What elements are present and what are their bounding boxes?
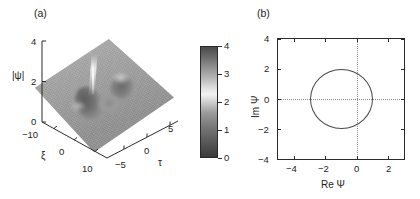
ytick-label-0: 0 <box>264 95 269 105</box>
xtick-top-0 <box>357 39 358 42</box>
colorbar-label-4: 4 <box>224 41 229 51</box>
panel-a: (a) <box>0 0 200 199</box>
figure-root: (a) <box>0 0 420 199</box>
colorbar-gradient <box>201 47 217 157</box>
colorbar-tick-2 <box>218 102 222 103</box>
ytick-label-minus2: −2 <box>258 125 269 135</box>
panel-b: (b) <box>245 0 420 199</box>
xtick-0 <box>357 156 358 159</box>
axes-3d-frame <box>0 0 200 199</box>
ytick-0 <box>278 99 281 100</box>
ytick-right-minus4 <box>401 159 404 160</box>
axis-label-psi: |ψ| <box>12 71 24 81</box>
colorbar-label-2: 2 <box>224 97 229 107</box>
ytick-label-minus4: −4 <box>258 155 269 165</box>
xtick-top-2 <box>388 39 389 42</box>
ytick-4 <box>278 39 281 40</box>
z-tick-0: 0 <box>31 117 36 127</box>
tau-tick-minus5: −5 <box>115 160 126 170</box>
colorbar-tick-0 <box>218 158 222 159</box>
tau-tick-0: 0 <box>144 146 149 156</box>
axis-label-im-psi: Im Ψ <box>251 96 261 118</box>
series-trajectory-circle <box>310 69 373 129</box>
xtick-top-minus2 <box>325 39 326 42</box>
colorbar <box>200 46 218 158</box>
xtick-2 <box>388 156 389 159</box>
xtick-minus4 <box>294 156 295 159</box>
colorbar-tick-4 <box>218 46 222 47</box>
ytick-label-4: 4 <box>264 34 269 44</box>
ytick-right-2 <box>401 69 404 70</box>
z-tick-4: 4 <box>31 37 36 47</box>
xtick-top-minus4 <box>294 39 295 42</box>
ytick-right-minus2 <box>401 129 404 130</box>
ytick-minus4 <box>278 159 281 160</box>
panel-b-tag: (b) <box>257 8 270 19</box>
colorbar-tick-3 <box>218 74 222 75</box>
ytick-right-4 <box>401 39 404 40</box>
axis-label-re-psi: Re Ψ <box>321 180 345 190</box>
ytick-label-2: 2 <box>264 64 269 74</box>
colorbar-label-3: 3 <box>224 69 229 79</box>
ytick-minus2 <box>278 129 281 130</box>
axis-label-tau: τ <box>158 158 162 168</box>
colorbar-label-0: 0 <box>224 153 229 163</box>
xtick-label-minus2: −2 <box>318 164 329 174</box>
ytick-right-0 <box>401 99 404 100</box>
xtick-label-minus4: −4 <box>286 164 297 174</box>
xtick-label-0: 0 <box>354 164 359 174</box>
xi-tick-10: 10 <box>82 164 93 174</box>
colorbar-tick-1 <box>218 130 222 131</box>
xtick-label-2: 2 <box>386 164 391 174</box>
ytick-2 <box>278 69 281 70</box>
z-tick-2: 2 <box>31 77 36 87</box>
colorbar-label-1: 1 <box>224 125 229 135</box>
tau-tick-5: 5 <box>168 124 173 134</box>
axis-label-xi: ξ <box>41 151 45 161</box>
xtick-minus2 <box>325 156 326 159</box>
xi-tick-0: 0 <box>59 147 64 157</box>
plot-area-b <box>277 38 405 160</box>
xi-tick-minus10: −10 <box>22 130 38 140</box>
